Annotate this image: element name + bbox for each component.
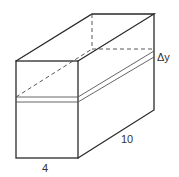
right-face: [78, 14, 154, 158]
box-diagram: Δy 10 4: [0, 0, 179, 177]
delta-y-label: Δy: [157, 51, 170, 63]
slice-bottom-side: [78, 57, 154, 102]
top-face: [16, 14, 154, 61]
length-label: 10: [121, 133, 133, 145]
width-label: 4: [42, 162, 48, 174]
hidden-water-level-left: [16, 49, 92, 97]
slice-top-side: [78, 51, 154, 97]
front-face: [16, 61, 78, 158]
